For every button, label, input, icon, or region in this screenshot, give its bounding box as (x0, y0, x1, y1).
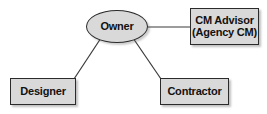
node-owner: Owner (86, 10, 148, 43)
node-cm-advisor-label-line1: CM Advisor (195, 15, 254, 27)
node-designer-label: Designer (20, 86, 65, 98)
edge-owner-to-designer (74, 38, 101, 79)
node-contractor-label: Contractor (167, 86, 221, 98)
diagram-canvas: Owner CM Advisor (Agency CM) Designer Co… (0, 0, 267, 114)
edge-owner-to-contractor (133, 38, 161, 79)
node-contractor: Contractor (160, 78, 229, 105)
node-cm-advisor-label-line2: (Agency CM) (192, 27, 257, 39)
node-designer: Designer (10, 78, 76, 105)
node-owner-label: Owner (100, 21, 133, 33)
node-cm-advisor: CM Advisor (Agency CM) (190, 8, 259, 45)
